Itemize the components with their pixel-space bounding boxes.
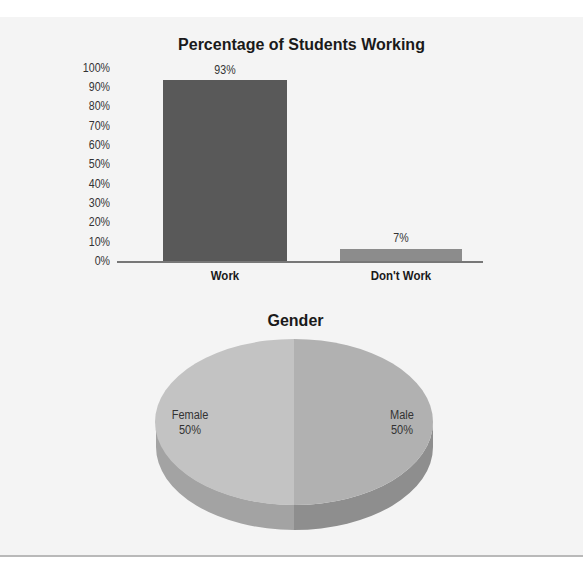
pie-label-female-name: Female [164, 408, 217, 423]
pie-label-female-value: 50% [164, 423, 217, 438]
pie-label-female: Female 50% [164, 408, 217, 438]
pie-label-male-name: Male [376, 408, 429, 423]
pie-chart [0, 0, 583, 575]
pie-label-male: Male 50% [376, 408, 429, 438]
pie-label-male-value: 50% [376, 423, 429, 438]
